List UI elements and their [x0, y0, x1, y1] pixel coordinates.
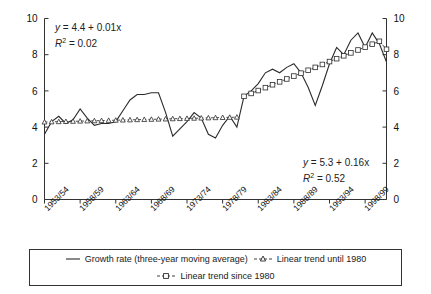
- y-axis-label-left: 4: [32, 122, 38, 133]
- chart-legend: Growth rate (three-year moving average) …: [29, 249, 402, 286]
- legend-triangle-icon: [253, 254, 273, 264]
- marker-square: [284, 77, 289, 82]
- y-axis-label-left: 8: [32, 49, 38, 60]
- y-axis-label-left: 0: [32, 194, 38, 205]
- eq-right-body: = 5.3 + 0.16x: [308, 157, 369, 168]
- marker-square: [349, 51, 354, 56]
- legend-row-2: Linear trend since 1980: [30, 267, 401, 284]
- marker-triangle: [220, 115, 225, 120]
- marker-square: [356, 48, 361, 53]
- legend-label-growth-rate: Growth rate (three-year moving average): [85, 254, 248, 264]
- marker-triangle: [234, 115, 239, 120]
- y-axis-label-right: 2: [394, 158, 400, 169]
- y-axis-label-right: 6: [394, 86, 400, 97]
- marker-square: [249, 91, 254, 96]
- marker-square: [327, 59, 332, 64]
- marker-square: [341, 53, 346, 58]
- marker-square: [242, 94, 247, 99]
- y-axis-label-right: 10: [394, 13, 406, 24]
- legend-label-trend-since-1980: Linear trend since 1980: [180, 271, 274, 281]
- legend-line-icon: [65, 254, 81, 264]
- trend-equation-pre1980: y = 4.4 + 0.01x R2 = 0.02: [55, 21, 121, 50]
- y-axis-label-right: 8: [394, 49, 400, 60]
- y-axis-label-right: 0: [394, 194, 400, 205]
- marker-square: [363, 45, 368, 50]
- marker-square: [384, 47, 389, 52]
- legend-square-icon: [156, 271, 176, 281]
- marker-square: [377, 39, 382, 44]
- eq-right-r2body: = 0.52: [314, 173, 345, 184]
- y-axis-label-right: 4: [394, 122, 400, 133]
- marker-square: [270, 82, 275, 87]
- marker-square: [334, 56, 339, 61]
- legend-row-1: Growth rate (three-year moving average) …: [30, 250, 401, 267]
- marker-square: [299, 71, 304, 76]
- marker-square: [306, 68, 311, 73]
- marker-square: [263, 85, 268, 90]
- marker-square: [313, 65, 318, 70]
- trend-equation-post1980: y = 5.3 + 0.16x R2 = 0.52: [303, 156, 369, 185]
- eq-left-r2body: = 0.02: [66, 38, 97, 49]
- legend-item-trend-until-1980: Linear trend until 1980: [253, 254, 367, 264]
- marker-square: [320, 62, 325, 67]
- y-axis-label-left: 10: [26, 13, 38, 24]
- y-axis-label-left: 2: [32, 158, 38, 169]
- marker-square: [256, 88, 261, 93]
- marker-square: [292, 74, 297, 79]
- y-axis-label-left: 6: [32, 86, 38, 97]
- legend-label-trend-until-1980: Linear trend until 1980: [277, 254, 367, 264]
- legend-item-growth-rate: Growth rate (three-year moving average): [65, 254, 248, 264]
- legend-item-trend-since-1980: Linear trend since 1980: [156, 271, 274, 281]
- marker-square: [370, 42, 375, 47]
- marker-square: [277, 80, 282, 85]
- eq-left-body: = 4.4 + 0.01x: [60, 22, 121, 33]
